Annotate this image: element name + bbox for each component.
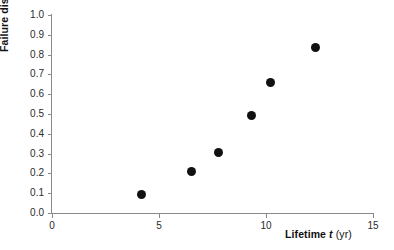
y-axis-title: Failure distribution F [0,0,10,52]
y-axis-tick: 0.5 [48,114,52,115]
y-axis-tick: 0.6 [48,94,52,95]
y-axis-tick: 0.3 [48,154,52,155]
x-axis-tick [159,213,160,218]
x-axis-tick-label: 0 [49,221,55,231]
y-axis-title-text: Failure distribution [0,0,10,52]
y-axis-tick-label: 0.1 [30,188,44,198]
y-axis-tick-label: 0.5 [30,109,44,119]
scatter-chart: Failure distribution F Lifetime t (yr) 0… [0,0,394,250]
y-axis-tick: 0.2 [48,173,52,174]
y-axis-tick-label: 0.6 [30,89,44,99]
x-axis-tick-label: 10 [260,221,271,231]
data-point [214,148,223,157]
data-point [247,111,256,120]
x-axis-tick [266,213,267,218]
x-axis-tick-label: 15 [367,221,378,231]
y-axis-tick: 0.4 [48,134,52,135]
y-axis-tick-label: 0.0 [30,208,44,218]
y-axis-tick: 0.7 [48,74,52,75]
y-axis-tick-label: 0.7 [30,69,44,79]
data-point [311,43,320,52]
x-axis-tick-label: 5 [156,221,162,231]
y-axis-tick-label: 0.2 [30,168,44,178]
x-axis-title: Lifetime t (yr) [285,228,352,240]
y-axis-tick: 0.9 [48,35,52,36]
x-axis-tick [373,213,374,218]
y-axis-tick-label: 0.8 [30,50,44,60]
x-axis-tick [52,213,53,218]
y-axis-tick: 0.8 [48,55,52,56]
x-axis-title-unit: (yr) [336,228,352,240]
y-axis-tick: 1.0 [48,15,52,16]
data-point [266,78,275,87]
data-point [137,190,146,199]
y-axis-tick-label: 0.4 [30,129,44,139]
x-axis-line [51,213,374,214]
y-axis-tick: 0.1 [48,193,52,194]
plot-area: 0.00.10.20.30.40.50.60.70.80.91.0051015 [52,15,373,213]
y-axis-tick-label: 0.3 [30,149,44,159]
data-point [187,167,196,176]
x-axis-title-text: Lifetime [285,228,326,240]
y-axis-tick-label: 1.0 [30,10,44,20]
y-axis-tick-label: 0.9 [30,30,44,40]
